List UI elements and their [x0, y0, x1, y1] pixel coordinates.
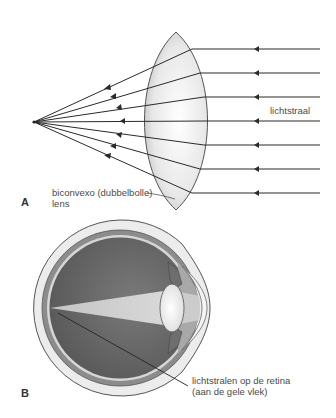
panel-a-lens-diagram: [32, 32, 320, 210]
retina-label-line1: lichtstralen op de retina: [192, 375, 290, 386]
retina-label-line2: (aan de gele vlek): [192, 386, 290, 397]
diagram-canvas: [0, 0, 336, 418]
lens-label-line1: biconvexo (dubbelbolle): [52, 187, 152, 198]
lens-label-line2: lens: [52, 198, 152, 209]
incoming-arrowheads: [254, 46, 259, 196]
lens-label: biconvexo (dubbelbolle) lens: [52, 187, 152, 209]
panel-b-eye-diagram: [34, 220, 210, 396]
panel-a-label: A: [21, 196, 29, 208]
panel-b-label: B: [21, 387, 29, 399]
eye-lens: [160, 284, 184, 332]
focal-point: [32, 120, 35, 123]
ray-label: lichtstraal: [270, 105, 310, 116]
retina-label: lichtstralen op de retina (aan de gele v…: [192, 375, 290, 397]
